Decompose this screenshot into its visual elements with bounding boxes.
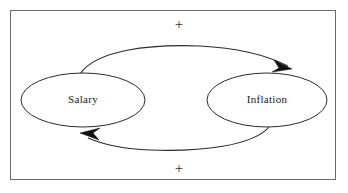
causal-loop-diagram: Salary Inflation + + xyxy=(0,0,348,193)
polarity-plus-top: + xyxy=(175,16,183,32)
node-inflation-label: Inflation xyxy=(247,93,288,105)
polarity-plus-bottom: + xyxy=(175,160,183,176)
diagram-canvas: Salary Inflation + + xyxy=(0,0,348,193)
node-salary-label: Salary xyxy=(68,93,98,105)
